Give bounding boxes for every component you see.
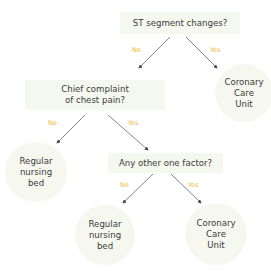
node-chest-pain-question: Chief complaint of chest pain? xyxy=(25,80,165,110)
node-text-line1: Regular xyxy=(20,156,53,167)
node-text-line1: Coronary xyxy=(224,77,263,88)
node-text: ST segment changes? xyxy=(133,18,228,29)
edge-q2-no xyxy=(57,115,85,143)
node-regular-nursing-bed-1: Regular nursing bed xyxy=(5,142,67,202)
node-coronary-care-unit-1: Coronary Care Unit xyxy=(215,64,271,122)
edge-label-q2-no: No xyxy=(48,119,57,127)
edge-label-q2-yes: Yes xyxy=(128,119,139,127)
edge-label-q3-no: No xyxy=(120,181,129,189)
node-text-line3: Unit xyxy=(235,99,253,110)
node-text-line1: Chief complaint xyxy=(61,84,129,95)
node-text-line3: Unit xyxy=(207,240,225,251)
node-st-segment-question: ST segment changes? xyxy=(120,12,240,34)
node-coronary-care-unit-2: Coronary Care Unit xyxy=(185,203,247,265)
node-text-line2: nursing xyxy=(20,167,52,178)
node-text-line1: Coronary xyxy=(196,218,235,229)
node-text-line2: Care xyxy=(234,88,254,99)
node-text-line2: nursing xyxy=(89,230,121,241)
node-regular-nursing-bed-2: Regular nursing bed xyxy=(75,205,135,265)
edge-label-q1-yes: Yes xyxy=(210,46,221,54)
edge-q1-no xyxy=(139,37,170,68)
node-text-line1: Regular xyxy=(89,219,122,230)
node-other-factor-question: Any other one factor? xyxy=(108,153,223,173)
edge-label-q1-no: No xyxy=(132,46,141,54)
node-text-line3: bed xyxy=(97,241,113,252)
node-text-line2: of chest pain? xyxy=(65,95,125,106)
node-text-line3: bed xyxy=(28,178,44,189)
edge-label-q3-yes: Yes xyxy=(188,181,199,189)
node-text-line2: Care xyxy=(206,229,226,240)
node-text: Any other one factor? xyxy=(119,158,212,169)
